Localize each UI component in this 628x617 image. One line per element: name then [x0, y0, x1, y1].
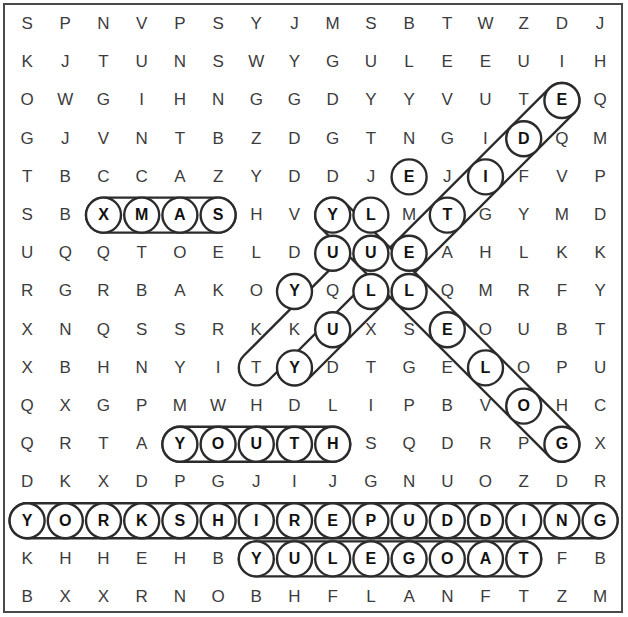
grid-cell-r14-c1[interactable]: Y [8, 502, 46, 540]
grid-cell-r1-c7[interactable]: Y [237, 5, 275, 43]
grid-cell-r6-c5[interactable]: A [161, 196, 199, 234]
grid-cell-r12-c3[interactable]: T [84, 425, 122, 463]
grid-cell-r7-c13[interactable]: H [466, 234, 504, 272]
grid-cell-r5-c7[interactable]: Y [237, 158, 275, 196]
grid-cell-r14-c16[interactable]: G [581, 502, 619, 540]
grid-cell-r7-c15[interactable]: K [543, 234, 581, 272]
grid-cell-r1-c13[interactable]: W [466, 5, 504, 43]
grid-cell-r6-c15[interactable]: M [543, 196, 581, 234]
grid-cell-r12-c9[interactable]: H [314, 425, 352, 463]
grid-cell-r16-c14[interactable]: T [505, 578, 543, 616]
grid-cell-r2-c14[interactable]: U [505, 43, 543, 81]
grid-cell-r1-c16[interactable]: J [581, 5, 619, 43]
grid-cell-r15-c1[interactable]: K [8, 540, 46, 578]
grid-cell-r2-c15[interactable]: I [543, 43, 581, 81]
grid-cell-r11-c14[interactable]: O [505, 387, 543, 425]
grid-cell-r5-c9[interactable]: D [314, 158, 352, 196]
grid-cell-r6-c4[interactable]: M [123, 196, 161, 234]
grid-cell-r12-c16[interactable]: X [581, 425, 619, 463]
grid-cell-r14-c12[interactable]: D [428, 502, 466, 540]
grid-cell-r9-c8[interactable]: K [275, 311, 313, 349]
grid-cell-r11-c4[interactable]: P [123, 387, 161, 425]
grid-cell-r13-c5[interactable]: P [161, 463, 199, 501]
grid-cell-r4-c2[interactable]: J [46, 120, 84, 158]
grid-cell-r2-c2[interactable]: J [46, 43, 84, 81]
grid-cell-r4-c7[interactable]: Z [237, 120, 275, 158]
grid-cell-r2-c7[interactable]: W [237, 43, 275, 81]
grid-cell-r5-c4[interactable]: C [123, 158, 161, 196]
grid-cell-r14-c10[interactable]: P [352, 502, 390, 540]
grid-cell-r13-c12[interactable]: U [428, 463, 466, 501]
grid-cell-r9-c14[interactable]: U [505, 311, 543, 349]
grid-cell-r9-c3[interactable]: Q [84, 311, 122, 349]
grid-cell-r6-c14[interactable]: Y [505, 196, 543, 234]
grid-cell-r16-c12[interactable]: N [428, 578, 466, 616]
grid-cell-r6-c11[interactable]: M [390, 196, 428, 234]
grid-cell-r2-c12[interactable]: E [428, 43, 466, 81]
grid-cell-r15-c13[interactable]: A [466, 540, 504, 578]
grid-cell-r11-c15[interactable]: H [543, 387, 581, 425]
grid-cell-r10-c16[interactable]: U [581, 349, 619, 387]
grid-cell-r9-c5[interactable]: S [161, 311, 199, 349]
grid-cell-r12-c8[interactable]: T [275, 425, 313, 463]
grid-cell-r2-c9[interactable]: G [314, 43, 352, 81]
grid-cell-r15-c5[interactable]: H [161, 540, 199, 578]
grid-cell-r16-c16[interactable]: M [581, 578, 619, 616]
grid-cell-r2-c6[interactable]: S [199, 43, 237, 81]
grid-cell-r1-c15[interactable]: D [543, 5, 581, 43]
grid-cell-r14-c5[interactable]: S [161, 502, 199, 540]
grid-cell-r7-c4[interactable]: T [123, 234, 161, 272]
grid-cell-r16-c8[interactable]: H [275, 578, 313, 616]
grid-cell-r1-c10[interactable]: S [352, 5, 390, 43]
grid-cell-r6-c2[interactable]: B [46, 196, 84, 234]
grid-cell-r12-c1[interactable]: Q [8, 425, 46, 463]
grid-cell-r8-c13[interactable]: M [466, 272, 504, 310]
grid-cell-r11-c8[interactable]: D [275, 387, 313, 425]
grid-cell-r10-c5[interactable]: Y [161, 349, 199, 387]
grid-cell-r10-c8[interactable]: Y [275, 349, 313, 387]
grid-cell-r8-c10[interactable]: L [352, 272, 390, 310]
grid-cell-r8-c15[interactable]: F [543, 272, 581, 310]
grid-cell-r4-c11[interactable]: N [390, 120, 428, 158]
grid-cell-r12-c6[interactable]: O [199, 425, 237, 463]
grid-cell-r11-c11[interactable]: P [390, 387, 428, 425]
grid-cell-r15-c15[interactable]: F [543, 540, 581, 578]
grid-cell-r12-c7[interactable]: U [237, 425, 275, 463]
grid-cell-r8-c11[interactable]: L [390, 272, 428, 310]
grid-cell-r1-c8[interactable]: J [275, 5, 313, 43]
grid-cell-r6-c1[interactable]: S [8, 196, 46, 234]
grid-cell-r2-c3[interactable]: T [84, 43, 122, 81]
grid-cell-r14-c7[interactable]: I [237, 502, 275, 540]
grid-cell-r16-c9[interactable]: F [314, 578, 352, 616]
grid-cell-r15-c9[interactable]: L [314, 540, 352, 578]
grid-cell-r8-c5[interactable]: A [161, 272, 199, 310]
grid-cell-r14-c15[interactable]: N [543, 502, 581, 540]
grid-cell-r11-c6[interactable]: W [199, 387, 237, 425]
grid-cell-r15-c10[interactable]: E [352, 540, 390, 578]
grid-cell-r2-c1[interactable]: K [8, 43, 46, 81]
grid-cell-r7-c11[interactable]: E [390, 234, 428, 272]
grid-cell-r11-c9[interactable]: L [314, 387, 352, 425]
grid-cell-r13-c11[interactable]: N [390, 463, 428, 501]
grid-cell-r7-c10[interactable]: U [352, 234, 390, 272]
grid-cell-r16-c15[interactable]: Z [543, 578, 581, 616]
grid-cell-r3-c15[interactable]: E [543, 81, 581, 119]
grid-cell-r7-c3[interactable]: Q [84, 234, 122, 272]
grid-cell-r7-c7[interactable]: L [237, 234, 275, 272]
grid-cell-r14-c6[interactable]: H [199, 502, 237, 540]
grid-cell-r7-c16[interactable]: K [581, 234, 619, 272]
grid-cell-r3-c14[interactable]: T [505, 81, 543, 119]
grid-cell-r5-c10[interactable]: J [352, 158, 390, 196]
grid-cell-r10-c13[interactable]: L [466, 349, 504, 387]
grid-cell-r7-c8[interactable]: D [275, 234, 313, 272]
grid-cell-r15-c8[interactable]: U [275, 540, 313, 578]
grid-cell-r12-c12[interactable]: D [428, 425, 466, 463]
grid-cell-r1-c3[interactable]: N [84, 5, 122, 43]
grid-cell-r15-c16[interactable]: B [581, 540, 619, 578]
grid-cell-r13-c13[interactable]: O [466, 463, 504, 501]
grid-cell-r8-c12[interactable]: Q [428, 272, 466, 310]
grid-cell-r5-c1[interactable]: T [8, 158, 46, 196]
grid-cell-r11-c1[interactable]: Q [8, 387, 46, 425]
grid-cell-r10-c9[interactable]: D [314, 349, 352, 387]
grid-cell-r4-c3[interactable]: V [84, 120, 122, 158]
